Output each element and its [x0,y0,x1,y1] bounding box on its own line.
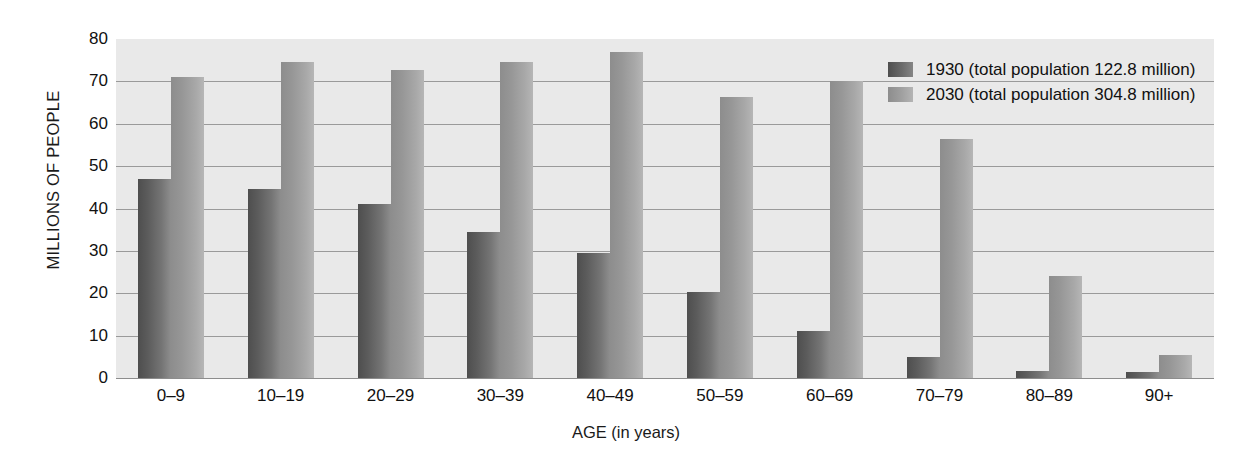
y-axis-tick-label: 10 [52,326,108,346]
y-axis-tick-label: 30 [52,241,108,261]
x-axis-tick-label: 10–19 [257,386,304,406]
bar [391,70,424,378]
y-axis-tick-label: 80 [52,29,108,49]
y-axis-tick-label: 50 [52,156,108,176]
y-axis-tick-label: 60 [52,114,108,134]
x-axis-title: AGE (in years) [0,423,1252,442]
bar [358,204,391,378]
y-axis-tick-label: 40 [52,199,108,219]
x-axis-baseline [116,378,1214,379]
bar [687,292,720,378]
legend-swatch-icon [888,87,913,102]
legend-item-label: 1930 (total population 122.8 million) [926,60,1195,80]
legend-item-label: 2030 (total population 304.8 million) [926,85,1195,105]
x-axis-tick-label: 40–49 [586,386,633,406]
bar [1049,276,1082,378]
x-axis-tick-label: 70–79 [916,386,963,406]
bar [720,97,753,378]
legend-item: 2030 (total population 304.8 million) [888,82,1195,107]
x-axis-tick-label: 60–69 [806,386,853,406]
bar [1159,355,1192,378]
bar [171,77,204,378]
legend-swatch-icon [888,62,913,77]
bar [830,81,863,378]
x-axis-tick-label: 20–29 [367,386,414,406]
bar [907,357,940,378]
bar [610,52,643,378]
bar [281,62,314,378]
bar [248,189,281,378]
x-axis-tick-label: 90+ [1145,386,1174,406]
bar-chart: MILLIONS OF PEOPLE 01020304050607080 0–9… [0,0,1252,468]
x-axis-tick-label: 30–39 [477,386,524,406]
legend-item: 1930 (total population 122.8 million) [888,57,1195,82]
x-axis-tick-label: 80–89 [1026,386,1073,406]
y-axis-tick-labels: 01020304050607080 [52,39,108,378]
chart-legend: 1930 (total population 122.8 million)203… [884,55,1199,109]
bar [940,139,973,378]
bar [797,331,830,378]
x-axis-tick-label: 50–59 [696,386,743,406]
bar [467,232,500,378]
x-axis-tick-label: 0–9 [157,386,185,406]
y-axis-tick-label: 70 [52,71,108,91]
x-axis-tick-labels: 0–910–1920–2930–3940–4950–5960–6970–7980… [116,386,1214,412]
y-axis-tick-label: 20 [52,283,108,303]
bar [1016,371,1049,378]
bar [138,179,171,378]
y-axis-tick-label: 0 [52,368,108,388]
bar [500,62,533,378]
bar [577,253,610,378]
